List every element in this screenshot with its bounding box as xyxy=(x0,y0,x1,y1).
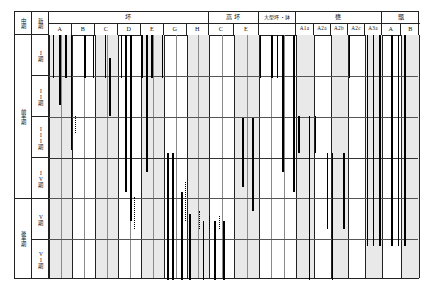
range-bar xyxy=(71,35,73,150)
stage-row-6: VI期 xyxy=(32,240,48,278)
col-head-tsuki-H: H xyxy=(187,23,209,35)
col-head-tsuki-A: A xyxy=(49,23,72,35)
row-header-col2-title: 新期 xyxy=(32,12,48,35)
range-bar xyxy=(75,116,76,133)
range-bar xyxy=(282,35,284,172)
range-bar xyxy=(181,192,183,280)
column-divider xyxy=(95,35,96,278)
range-bar xyxy=(65,35,67,78)
stage-row-2: II期 xyxy=(32,76,48,117)
col-head-tsuki-B: B xyxy=(72,23,95,35)
column-subdivider xyxy=(198,35,199,278)
group-header-koshiki: 甑 xyxy=(382,12,420,23)
range-bar xyxy=(271,35,273,78)
col-head-kame-A2c: A2c xyxy=(348,23,365,35)
column-divider xyxy=(401,35,402,278)
column-subdivider xyxy=(247,35,248,278)
column-divider xyxy=(234,35,235,278)
col-head-takatsuki-E: E xyxy=(234,23,259,35)
range-bar xyxy=(84,35,86,78)
column-subdivider xyxy=(284,35,285,278)
group-header-kame: 甕 xyxy=(296,12,382,23)
chart-frame: 中期 前半期 後半期 新期 I期 II期 III期 IV期 xyxy=(14,11,419,279)
range-bar xyxy=(219,216,220,228)
range-bar xyxy=(105,35,107,78)
range-bar xyxy=(277,35,279,78)
column-divider xyxy=(296,35,297,278)
col-head-kame-A2a: A2a xyxy=(314,23,331,35)
range-bar xyxy=(214,221,216,280)
range-bar xyxy=(343,153,345,229)
range-bar xyxy=(109,58,111,116)
column-divider xyxy=(314,35,315,278)
column-subdivider xyxy=(222,35,223,278)
range-bar xyxy=(260,35,262,78)
range-bar xyxy=(199,211,200,228)
range-bar xyxy=(141,35,143,78)
col-head-kame-A1a: A1a xyxy=(296,23,314,35)
col-head-kame-A3a: A3a xyxy=(365,23,382,35)
plot-area xyxy=(49,35,418,278)
col-head-tsuki-G: G xyxy=(164,23,187,35)
range-bar xyxy=(332,153,334,280)
range-bar xyxy=(167,153,169,280)
range-bar xyxy=(59,35,61,105)
range-bar xyxy=(151,35,153,78)
col-head-takatsuki-C: C xyxy=(209,23,234,35)
column-subdivider xyxy=(176,35,177,278)
range-bar xyxy=(223,221,225,280)
column-divider xyxy=(49,35,50,278)
range-bar xyxy=(293,35,295,192)
major-group-second-half: 後半期 xyxy=(15,199,31,278)
column-band xyxy=(296,35,314,278)
range-bar xyxy=(162,35,164,78)
column-divider xyxy=(187,35,188,278)
range-bar xyxy=(398,35,400,246)
range-bar xyxy=(404,35,406,246)
column-subdivider xyxy=(107,35,108,278)
column-divider xyxy=(382,35,383,278)
col-head-koshiki-A: A xyxy=(382,23,401,35)
row-header-col1-title: 中期 xyxy=(15,12,31,35)
range-bar xyxy=(373,35,375,246)
col-head-kame-A2b: A2b xyxy=(331,23,348,35)
row-header-col-stage: 新期 I期 II期 III期 IV期 V期 VI期 xyxy=(32,12,49,278)
range-bar xyxy=(93,35,95,78)
column-divider xyxy=(209,35,210,278)
range-bar xyxy=(242,118,244,187)
range-bar xyxy=(298,116,300,153)
range-bar xyxy=(252,118,254,211)
range-bar xyxy=(203,221,205,280)
range-bar xyxy=(379,35,381,246)
col-head-tsuki-D: D xyxy=(118,23,141,35)
range-bar xyxy=(53,35,55,78)
range-bar xyxy=(146,35,148,172)
range-bar xyxy=(189,214,191,280)
column-subheader-row: A B C D E G H C E A1a A2a A2b A2c A3a A … xyxy=(49,23,420,35)
range-bar xyxy=(172,153,174,280)
range-bar xyxy=(185,182,186,221)
stage-row-5: V期 xyxy=(32,199,48,240)
col-head-tsuki-E: E xyxy=(141,23,164,35)
row-gridline xyxy=(49,158,418,159)
col-head-koshiki-B: B xyxy=(401,23,420,35)
group-header-ogata: 大型坏・鉢 xyxy=(259,12,296,23)
range-bar xyxy=(367,35,369,246)
group-header-takatsuki: 高 坏 xyxy=(209,12,259,23)
column-group-header-row: 坏 高 坏 大型坏・鉢 甕 甑 xyxy=(49,12,420,23)
seriation-chart-root: 中期 前半期 後半期 新期 I期 II期 III期 IV期 xyxy=(0,0,433,293)
column-divider xyxy=(419,35,420,278)
range-bar xyxy=(349,35,351,78)
range-bar xyxy=(315,116,317,153)
range-bar xyxy=(209,216,210,228)
stage-row-3: III期 xyxy=(32,117,48,158)
row-gridline xyxy=(49,198,418,199)
range-bar xyxy=(121,35,123,78)
range-bar xyxy=(130,35,132,221)
range-bar xyxy=(327,153,329,229)
range-bar xyxy=(309,116,311,280)
stage-row-1: I期 xyxy=(32,35,48,76)
stage-row-4: IV期 xyxy=(32,158,48,199)
column-band xyxy=(331,35,348,278)
row-header-col-major: 中期 前半期 後半期 xyxy=(15,12,32,278)
